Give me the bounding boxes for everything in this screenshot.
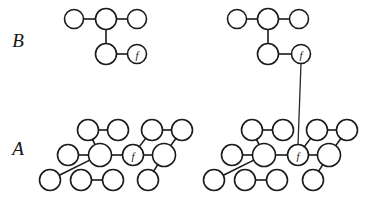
graph-node bbox=[40, 170, 61, 191]
f-correspondence-line bbox=[298, 63, 301, 145]
graph-node bbox=[253, 144, 276, 167]
graph-node bbox=[303, 170, 324, 191]
graph-node bbox=[71, 170, 92, 191]
graph-edge bbox=[170, 138, 176, 146]
graph-edge bbox=[335, 138, 341, 146]
graph-node bbox=[204, 170, 225, 191]
graph-node bbox=[307, 120, 328, 141]
graph-node bbox=[108, 120, 129, 141]
graph-node bbox=[242, 120, 263, 141]
graph-node bbox=[273, 120, 294, 141]
graph-node bbox=[318, 144, 341, 167]
graph-node bbox=[96, 44, 117, 65]
graph-node bbox=[337, 120, 358, 141]
graph-node bbox=[128, 10, 147, 29]
graph-node bbox=[267, 170, 288, 191]
figure-canvas: B A f f f f bbox=[0, 0, 372, 203]
graph-edge bbox=[139, 138, 146, 147]
fine-lattice-right: f bbox=[204, 120, 358, 191]
diagram-svg: B A f f f f bbox=[0, 0, 372, 203]
graph-node bbox=[258, 9, 279, 30]
row-label-b: B bbox=[12, 30, 24, 51]
graph-node bbox=[78, 120, 99, 141]
graph-node bbox=[142, 120, 163, 141]
graph-node bbox=[89, 144, 112, 167]
graph-edge bbox=[304, 138, 311, 147]
graph-node bbox=[172, 120, 193, 141]
graph-node bbox=[58, 145, 79, 166]
graph-node bbox=[290, 10, 309, 29]
coarse-graph-left: f bbox=[65, 9, 147, 65]
graph-node bbox=[96, 9, 117, 30]
fine-lattice-left: f bbox=[40, 120, 193, 191]
graph-node bbox=[228, 10, 247, 29]
interlevel-link-group bbox=[298, 63, 301, 145]
graph-node bbox=[153, 144, 176, 167]
graph-node bbox=[65, 10, 84, 29]
graph-node bbox=[138, 170, 159, 191]
graph-node bbox=[258, 44, 279, 65]
graph-node bbox=[235, 170, 256, 191]
row-label-a: A bbox=[10, 138, 24, 159]
coarse-graph-right: f bbox=[228, 9, 311, 65]
graph-node bbox=[222, 145, 243, 166]
graph-node bbox=[103, 170, 124, 191]
